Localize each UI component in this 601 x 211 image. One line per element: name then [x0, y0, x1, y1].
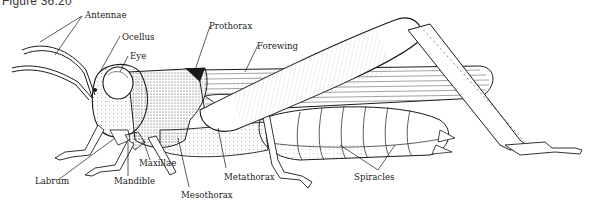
label-mandible: Mandible [114, 177, 155, 186]
grasshopper-illustration [0, 0, 601, 211]
label-ocellus: Ocellus [122, 33, 154, 42]
label-antennae: Antennae [85, 11, 127, 20]
label-eye: Eye [130, 52, 146, 61]
label-forewing: Forewing [257, 42, 298, 51]
antennae-drawing [12, 46, 95, 100]
label-prothorax: Prothorax [209, 22, 252, 31]
label-spiracles: Spiracles [354, 173, 394, 182]
label-mesothorax: Mesothorax [181, 191, 233, 200]
label-maxillae: Maxillae [139, 159, 176, 168]
label-metathorax: Metathorax [224, 173, 275, 182]
figure-canvas: Figure 36.20 [0, 0, 601, 211]
head-drawing [92, 64, 147, 150]
label-labrum: Labrum [35, 177, 69, 186]
abdomen-drawing [259, 106, 455, 160]
